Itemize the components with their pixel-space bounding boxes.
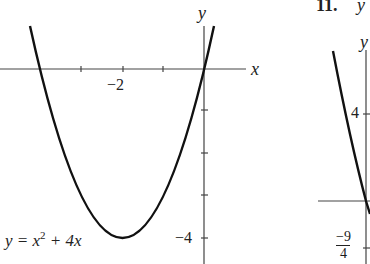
fraction-numerator: −9 — [336, 230, 351, 244]
y-tick-label-right: 4 — [351, 105, 359, 121]
x-tick-label: −2 — [107, 77, 124, 93]
right-curve — [333, 51, 370, 214]
equation-rhs: + 4x — [46, 231, 82, 250]
problem-variable: y — [357, 0, 365, 14]
parabola-curve — [30, 26, 214, 238]
graph-canvas — [0, 0, 370, 264]
x-axis-label: x — [251, 60, 259, 78]
y-axis-label: y — [198, 4, 206, 22]
y-tick-label: −4 — [175, 230, 192, 246]
fraction-label: −9 4 — [336, 230, 351, 261]
equation-label: y = x2 + 4x — [5, 230, 82, 249]
y-axis-label-right: y — [360, 33, 368, 51]
problem-number: 11. — [316, 0, 338, 14]
fraction-denominator: 4 — [340, 247, 347, 261]
equation-lhs: y = x — [5, 231, 40, 250]
